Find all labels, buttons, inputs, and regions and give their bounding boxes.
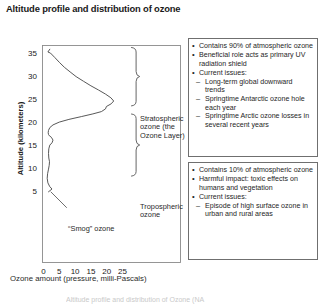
list-item: • Current issues:	[191, 69, 314, 78]
y-axis-title: Altitude (kilometers)	[16, 89, 25, 189]
ozone-profile-chart: 35 30 25 20 15 10 5 0 5 10 15 20 25	[0, 22, 190, 304]
list-item-text: Current issues:	[199, 69, 247, 77]
list-item-text: Long-term global downward trends	[205, 78, 293, 95]
list-item-text: Contains 90% of atmospheric ozone	[199, 42, 313, 50]
cut-off-caption: Altitude profile and distribution of Ozo…	[66, 296, 316, 304]
list-item: • Harmful impact: toxic effects on human…	[191, 175, 314, 192]
list-item-text: Current issues:	[199, 193, 247, 201]
info-panel: • Contains 90% of atmospheric ozone • Be…	[188, 38, 318, 260]
tropospheric-sub-list: – Episode of high surface ozone in urban…	[191, 202, 314, 219]
tropospheric-ozone-label: Tropospheric ozone	[140, 203, 192, 220]
list-item: – Springtime Arctic ozone losses in seve…	[196, 112, 314, 129]
list-item: • Beneficial role acts as primary UV rad…	[191, 51, 314, 68]
list-item: • Contains 90% of atmospheric ozone	[191, 42, 314, 51]
tropospheric-bullet-list: • Contains 10% of atmospheric ozone • Ha…	[191, 166, 314, 201]
x-axis-title: Ozone amount (pressure, milli-Pascals)	[10, 274, 147, 283]
list-item: – Episode of high surface ozone in urban…	[196, 202, 314, 219]
svg-text:10: 10	[28, 164, 37, 173]
list-item-text: Episode of high surface ozone in urban a…	[205, 202, 308, 219]
list-item: – Springtime Antarctic ozone hole each y…	[196, 95, 314, 112]
bullet-marker-icon: •	[192, 193, 195, 202]
stratospheric-sub-list: – Long-term global downward trends – Spr…	[191, 78, 314, 130]
list-item: • Current issues:	[191, 193, 314, 202]
list-item: – Long-term global downward trends	[196, 78, 314, 95]
bullet-marker-icon: •	[192, 175, 195, 184]
bullet-marker-icon: •	[192, 51, 195, 60]
dash-marker-icon: –	[196, 95, 200, 104]
stratospheric-ozone-label: Stratospheric ozone (the Ozone Layer)	[140, 115, 192, 140]
smog-ozone-label: “Smog” ozone	[68, 225, 114, 233]
svg-text:25: 25	[28, 95, 37, 104]
stratospheric-info-box: • Contains 90% of atmospheric ozone • Be…	[188, 38, 318, 157]
page-title: Altitude profile and distribution of ozo…	[6, 3, 180, 14]
list-item-text: Beneficial role acts as primary UV radia…	[199, 51, 305, 68]
dash-marker-icon: –	[196, 202, 200, 211]
svg-text:5: 5	[33, 187, 38, 196]
stratospheric-bullet-list: • Contains 90% of atmospheric ozone • Be…	[191, 42, 314, 77]
list-item-text: Contains 10% of atmospheric ozone	[199, 166, 313, 174]
tropospheric-info-box: • Contains 10% of atmospheric ozone • Ha…	[188, 162, 318, 260]
dash-marker-icon: –	[196, 78, 200, 87]
bullet-marker-icon: •	[192, 69, 195, 78]
list-item-text: Harmful impact: toxic effects on humans …	[199, 175, 298, 192]
chart-container: 35 30 25 20 15 10 5 0 5 10 15 20 25 Alti…	[0, 22, 190, 304]
svg-text:30: 30	[28, 72, 37, 81]
y-tick-labels: 35 30 25 20 15 10 5	[28, 49, 37, 197]
list-item: • Contains 10% of atmospheric ozone	[191, 166, 314, 175]
list-item-text: Springtime Arctic ozone losses in severa…	[205, 112, 309, 129]
dash-marker-icon: –	[196, 112, 200, 121]
svg-text:15: 15	[28, 141, 37, 150]
list-item-text: Springtime Antarctic ozone hole each yea…	[205, 95, 305, 112]
svg-text:20: 20	[28, 118, 37, 127]
svg-text:35: 35	[28, 49, 37, 58]
